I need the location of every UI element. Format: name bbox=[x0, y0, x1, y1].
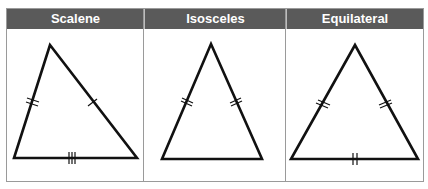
equilateral-triangle bbox=[291, 45, 418, 159]
tick-marks bbox=[26, 98, 392, 165]
triangles-figure bbox=[0, 0, 428, 189]
scalene-triangle bbox=[14, 45, 137, 158]
isosceles-triangle bbox=[162, 44, 262, 159]
